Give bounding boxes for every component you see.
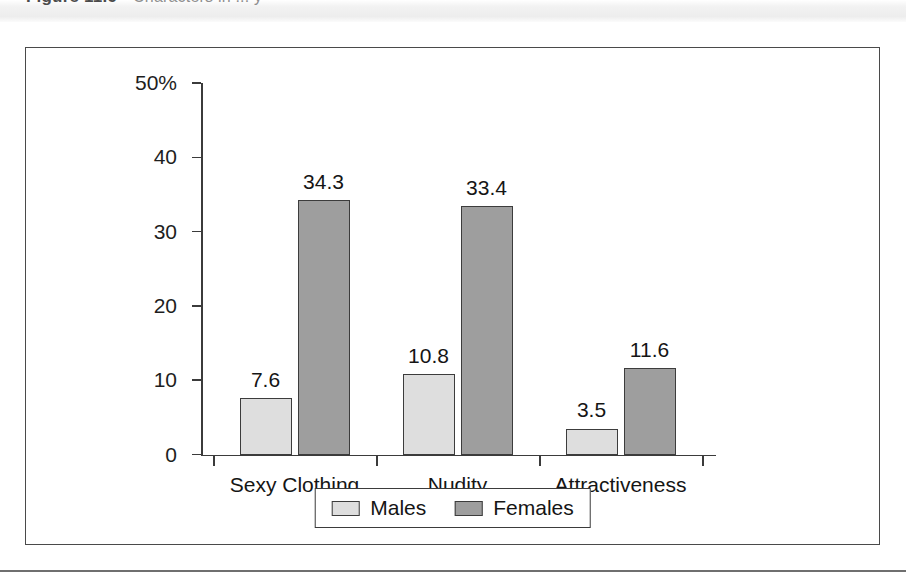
chart-legend: Males Females [314, 488, 591, 528]
bar-females-attractiveness [624, 368, 676, 454]
y-axis-tick-label: 30 [154, 220, 177, 244]
bar-females-sexy-clothing [298, 200, 350, 455]
y-axis-tick [192, 454, 201, 456]
y-axis-line [201, 83, 203, 456]
y-axis-tick-label: 40 [154, 145, 177, 169]
bar-value-label: 3.5 [577, 398, 606, 422]
x-axis-tick [539, 456, 541, 466]
page-bottom-rule [0, 570, 906, 572]
x-axis-tick [702, 456, 704, 466]
bar-males-sexy-clothing [240, 398, 292, 454]
legend-swatch-females-icon [454, 501, 482, 516]
y-axis-tick-label: 20 [154, 294, 177, 318]
y-axis-tick [192, 157, 201, 159]
plot-area: 01020304050% 7.634.3Sexy Clothing10.833.… [201, 83, 701, 456]
legend-swatch-males-icon [331, 501, 359, 516]
figure-caption-text: Characters in ... y [133, 0, 262, 5]
y-axis-tick-label: 10 [154, 368, 177, 392]
figure-caption-strip: Figure 11.6Characters in ... y [0, 0, 906, 22]
chart-frame: 01020304050% 7.634.3Sexy Clothing10.833.… [25, 47, 880, 545]
y-axis-tick [192, 82, 201, 84]
figure-caption: Figure 11.6Characters in ... y [26, 0, 262, 7]
bar-males-attractiveness [566, 429, 618, 455]
bar-value-label: 10.8 [408, 344, 449, 368]
x-axis-line [201, 455, 716, 457]
legend-item-females: Females [454, 496, 574, 520]
figure-caption-label: Figure 11.6 [26, 0, 117, 6]
x-axis-tick [376, 456, 378, 466]
bar-females-nudity [461, 206, 513, 454]
legend-label-males: Males [370, 496, 426, 520]
x-axis-tick [213, 456, 215, 466]
bar-value-label: 34.3 [303, 170, 344, 194]
bar-value-label: 7.6 [251, 368, 280, 392]
bar-value-label: 11.6 [630, 338, 669, 362]
y-axis-tick-label: 0 [165, 443, 177, 467]
y-axis-tick-label: 50% [135, 71, 177, 95]
legend-item-males: Males [331, 496, 426, 520]
bar-value-label: 33.4 [466, 176, 507, 200]
legend-label-females: Females [493, 496, 574, 520]
bar-males-nudity [403, 374, 455, 454]
y-axis-tick [192, 379, 201, 381]
y-axis-tick [192, 231, 201, 233]
y-axis-tick [192, 305, 201, 307]
